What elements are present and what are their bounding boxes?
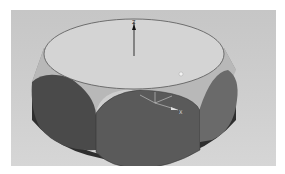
cad-model[interactable] [11, 10, 276, 166]
center-scallop-face [96, 90, 200, 166]
3d-viewport[interactable]: Z X [11, 10, 276, 166]
x-axis-label: X [179, 109, 182, 115]
z-axis-label: Z [132, 19, 135, 25]
point-marker-icon[interactable] [179, 72, 183, 76]
